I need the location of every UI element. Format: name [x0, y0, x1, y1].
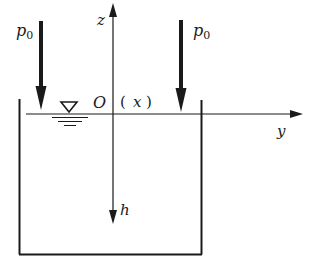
h-axis-arrowhead-icon	[109, 210, 117, 224]
pressure-label-right: p0	[193, 21, 210, 42]
origin-label: O	[93, 93, 106, 112]
x-axis-paren-close: )	[146, 93, 152, 111]
pressure-label-left-p: p	[16, 21, 26, 40]
fluid-pressure-diagram: y z h O ( x ) p0 p0	[0, 0, 318, 266]
z-axis-arrowhead-icon	[109, 3, 117, 17]
container	[19, 99, 202, 255]
pressure-arrow-left	[36, 21, 47, 110]
y-axis-arrowhead-icon	[290, 110, 303, 118]
h-axis-label: h	[120, 201, 130, 219]
pressure-arrow-right	[176, 20, 187, 112]
pressure-label-left-sub: 0	[26, 29, 33, 42]
pressure-label-left: p0	[16, 21, 33, 42]
pressure-label-right-sub: 0	[203, 29, 210, 42]
x-axis-label: x	[133, 93, 142, 111]
pressure-arrowhead-left-icon	[36, 86, 47, 110]
x-axis-paren-open: (	[120, 93, 126, 111]
pressure-label-right-p: p	[193, 21, 203, 40]
y-axis-label: y	[276, 122, 286, 140]
pressure-arrowhead-right-icon	[176, 88, 187, 112]
z-axis-label: z	[96, 11, 105, 29]
